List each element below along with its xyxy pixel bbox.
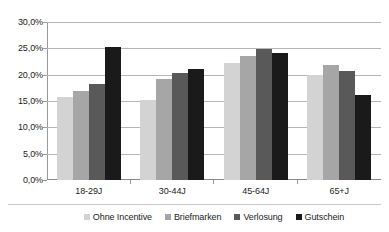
y-tick-label: 5,0% (0, 150, 43, 159)
bar (73, 91, 89, 180)
bar (355, 95, 371, 180)
legend-separator (8, 204, 381, 205)
legend-item[interactable]: Gutschein (296, 212, 345, 222)
bar (172, 73, 188, 180)
legend-item[interactable]: Verlosung (234, 212, 282, 222)
legend-swatch-icon (84, 214, 90, 220)
plot-area (47, 22, 381, 180)
x-axis-label: 65+J (298, 184, 382, 200)
bar-group (47, 22, 131, 180)
legend-item[interactable]: Briefmarken (165, 212, 221, 222)
y-tick-label: 20,0% (0, 71, 43, 80)
y-tick-label: 25,0% (0, 44, 43, 53)
y-axis: 30,0% 25,0% 20,0% 15,0% 10,0% 5,0% 0,0% (0, 22, 43, 180)
legend-label: Briefmarken (174, 212, 221, 222)
bar-group (131, 22, 215, 180)
bar (188, 69, 204, 180)
x-axis-label: 18-29J (47, 184, 131, 200)
bar (140, 100, 156, 180)
bar (105, 47, 121, 180)
y-tick-mark (43, 180, 47, 181)
bar (323, 65, 339, 180)
bar (256, 49, 272, 180)
legend-swatch-icon (296, 214, 302, 220)
bar (307, 75, 323, 180)
y-tick-label: 30,0% (0, 18, 43, 27)
legend-label: Gutschein (305, 212, 345, 222)
x-axis-label: 30-44J (131, 184, 215, 200)
legend-label: Ohne Incentive (93, 212, 152, 222)
x-axis-label: 45-64J (214, 184, 298, 200)
bar-chart: 30,0% 25,0% 20,0% 15,0% 10,0% 5,0% 0,0% … (0, 0, 389, 232)
bar (339, 71, 355, 180)
bar (57, 97, 73, 180)
legend-label: Verlosung (243, 212, 282, 222)
x-axis-labels: 18-29J30-44J45-64J65+J (47, 184, 381, 200)
bar (156, 79, 172, 180)
bar-group (214, 22, 298, 180)
legend: Ohne IncentiveBriefmarkenVerlosungGutsch… (47, 209, 381, 225)
bar (89, 84, 105, 180)
bar (272, 53, 288, 180)
y-tick-label: 10,0% (0, 123, 43, 132)
bar-groups (47, 22, 381, 180)
bar-group (298, 22, 382, 180)
legend-swatch-icon (234, 214, 240, 220)
y-tick-label: 15,0% (0, 97, 43, 106)
y-tick-label: 0,0% (0, 176, 43, 185)
legend-item[interactable]: Ohne Incentive (84, 212, 152, 222)
legend-swatch-icon (165, 214, 171, 220)
bar (224, 63, 240, 180)
bar (240, 56, 256, 180)
